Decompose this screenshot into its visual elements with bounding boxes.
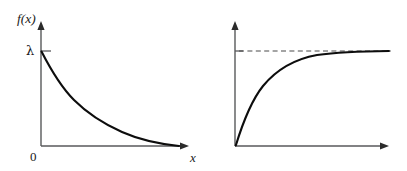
exponential-cdf-curve — [236, 51, 389, 146]
arrow-head-icon-x-pdf — [180, 142, 189, 149]
pdf-origin-label: 0 — [30, 150, 37, 163]
pdf-x-axis-label: x — [190, 151, 196, 164]
arrow-head-icon-y-cdf — [231, 21, 238, 30]
arrow-head-icon-y-pdf — [37, 21, 44, 30]
arrow-head-icon-x-cdf — [380, 142, 389, 149]
exponential-pdf-curve — [42, 52, 180, 147]
chart-panel-cdf: F(x) 1 0 x — [203, 0, 407, 171]
figure-exponential-distribution: f(x) λ 0 x F(x) 1 0 x — [0, 0, 407, 171]
pdf-y-axis-label: f(x) — [17, 12, 36, 26]
pdf-y-tick-label-lambda: λ — [26, 44, 34, 57]
chart-panel-pdf: f(x) λ 0 x — [0, 0, 204, 171]
cdf-plot-area — [203, 0, 407, 171]
